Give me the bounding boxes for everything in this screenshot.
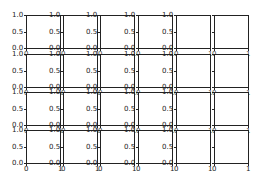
x-tick-mark	[60, 126, 61, 128]
x-tick-label: 0	[136, 166, 140, 173]
y-tick-mark	[61, 130, 63, 131]
y-tick-label: 1.0	[86, 12, 97, 19]
y-tick-mark	[174, 71, 176, 72]
subplot-axes	[176, 130, 211, 164]
y-tick-mark	[174, 15, 176, 16]
y-tick-label: 0.5	[162, 29, 173, 36]
x-tick-mark	[214, 49, 215, 51]
y-tick-mark	[61, 71, 63, 72]
subplot-axes	[176, 92, 211, 126]
y-tick-label: 0.5	[49, 144, 60, 151]
y-tick-label: 0.5	[12, 68, 23, 75]
x-tick-mark	[248, 49, 249, 51]
y-tick-label: 0.5	[86, 68, 97, 75]
x-tick-mark	[248, 164, 249, 166]
y-tick-label: 1.0	[12, 89, 23, 96]
y-tick-mark	[24, 92, 26, 93]
x-tick-mark	[214, 88, 215, 90]
x-tick-mark	[97, 126, 98, 128]
y-tick-mark	[174, 32, 176, 33]
y-tick-label: 0.5	[49, 68, 60, 75]
x-tick-mark	[63, 88, 64, 90]
x-tick-mark	[100, 49, 101, 51]
y-tick-label: 0.5	[49, 106, 60, 113]
x-tick-mark	[210, 164, 211, 166]
y-tick-mark	[174, 109, 176, 110]
y-tick-label: 0.5	[12, 106, 23, 113]
x-tick-mark	[138, 164, 139, 166]
subplot-axes	[176, 54, 211, 88]
y-tick-mark	[136, 54, 138, 55]
y-tick-mark	[174, 147, 176, 148]
y-tick-mark	[98, 130, 100, 131]
y-tick-mark	[98, 71, 100, 72]
x-tick-mark	[138, 88, 139, 90]
subplot-axes	[214, 130, 249, 164]
y-tick-label: 0.5	[124, 29, 135, 36]
x-tick-mark	[97, 164, 98, 166]
y-tick-label: 0.5	[49, 29, 60, 36]
y-tick-label: 1.0	[162, 127, 173, 134]
y-tick-mark	[136, 147, 138, 148]
y-tick-label: 1.0	[12, 12, 23, 19]
y-tick-label: 1.0	[49, 12, 60, 19]
y-tick-label: 1.0	[12, 51, 23, 58]
y-tick-mark	[98, 109, 100, 110]
y-tick-mark	[24, 109, 26, 110]
x-tick-mark	[210, 126, 211, 128]
y-tick-mark	[24, 71, 26, 72]
x-tick-mark	[97, 49, 98, 51]
y-tick-mark	[212, 71, 214, 72]
x-tick-mark	[26, 49, 27, 51]
y-tick-mark	[136, 109, 138, 110]
y-tick-mark	[212, 15, 214, 16]
x-tick-mark	[138, 49, 139, 51]
x-tick-mark	[26, 126, 27, 128]
y-tick-mark	[24, 130, 26, 131]
y-tick-label: 0.5	[162, 144, 173, 151]
y-tick-label: 0.5	[162, 106, 173, 113]
y-tick-mark	[61, 15, 63, 16]
y-tick-label: 0.5	[86, 29, 97, 36]
x-tick-mark	[210, 88, 211, 90]
y-tick-mark	[174, 130, 176, 131]
y-tick-mark	[98, 15, 100, 16]
y-tick-label: 1.0	[124, 89, 135, 96]
y-tick-mark	[136, 92, 138, 93]
y-tick-mark	[174, 54, 176, 55]
y-tick-label: 0.5	[124, 144, 135, 151]
y-tick-label: 0.5	[12, 29, 23, 36]
y-tick-label: 1.0	[49, 89, 60, 96]
x-tick-mark	[60, 49, 61, 51]
y-tick-label: 0.0	[12, 160, 23, 167]
y-tick-label: 0.5	[124, 68, 135, 75]
y-tick-mark	[98, 32, 100, 33]
x-tick-mark	[26, 88, 27, 90]
y-tick-mark	[212, 109, 214, 110]
y-tick-mark	[212, 92, 214, 93]
x-tick-mark	[60, 164, 61, 166]
subplot-axes	[214, 92, 249, 126]
y-tick-label: 0.0	[124, 160, 135, 167]
x-tick-mark	[176, 88, 177, 90]
y-tick-label: 0.0	[49, 160, 60, 167]
x-tick-label: 0	[61, 166, 65, 173]
y-tick-mark	[136, 15, 138, 16]
y-tick-label: 0.5	[162, 68, 173, 75]
x-tick-mark	[97, 88, 98, 90]
y-tick-label: 1.0	[124, 12, 135, 19]
x-tick-mark	[63, 126, 64, 128]
y-tick-label: 0.5	[86, 144, 97, 151]
y-tick-label: 1.0	[49, 51, 60, 58]
y-tick-label: 1.0	[124, 127, 135, 134]
x-tick-mark	[100, 88, 101, 90]
y-tick-label: 1.0	[12, 127, 23, 134]
x-tick-mark	[176, 126, 177, 128]
y-tick-mark	[24, 54, 26, 55]
y-tick-mark	[61, 109, 63, 110]
y-tick-mark	[61, 147, 63, 148]
y-tick-label: 1.0	[162, 89, 173, 96]
y-tick-mark	[98, 147, 100, 148]
y-tick-label: 0.5	[124, 106, 135, 113]
x-tick-mark	[60, 88, 61, 90]
